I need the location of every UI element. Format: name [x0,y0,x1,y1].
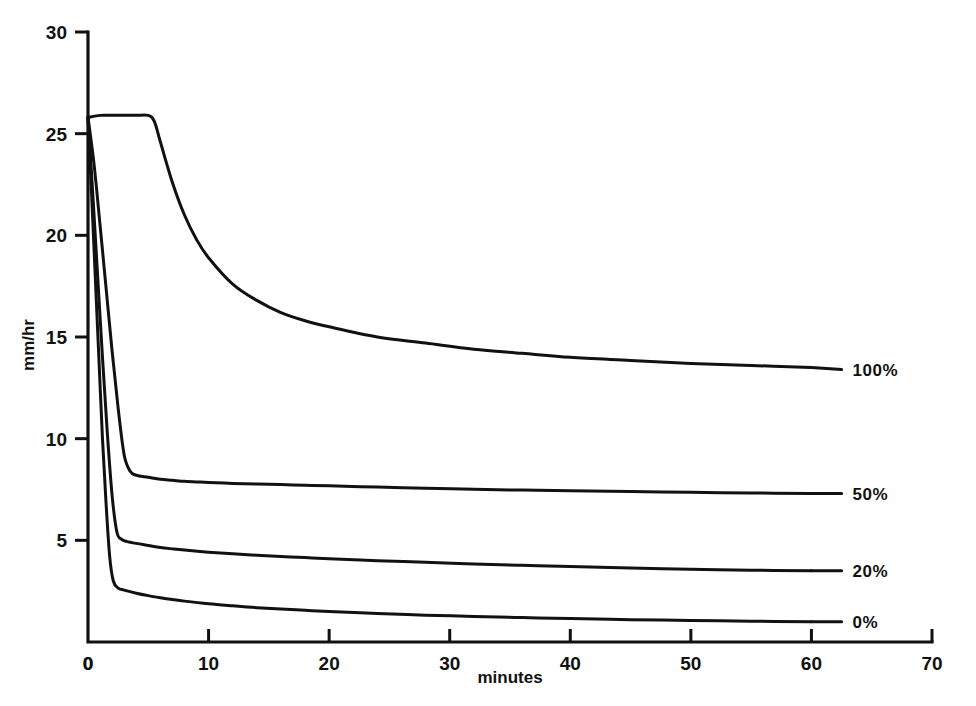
series-label-leader [811,368,841,370]
series-labels: 100%50%20%0% [853,361,898,632]
axis-lines [88,32,932,642]
series-label-20pct: 20% [853,562,889,581]
series-label-100pct: 100% [853,361,898,380]
y-tick-label: 15 [46,327,68,348]
axis-frame [88,32,932,642]
data-curve [88,117,811,493]
x-tick-label: 30 [439,653,460,674]
chart-figure: 010203040506070 510152025300 100%50%20%0… [0,0,976,706]
y-tick-label: 10 [46,429,67,450]
x-tick-label: 70 [921,653,942,674]
line-chart-svg: 010203040506070 510152025300 100%50%20%0… [0,0,976,706]
y-axis-ticks: 510152025300 [46,22,93,674]
x-tick-label: 10 [198,653,219,674]
data-curves [88,115,811,622]
y-axis-title: mm/hr [19,319,38,371]
origin-label: 0 [83,653,94,674]
y-tick-label: 5 [56,530,67,551]
y-tick-label: 20 [46,225,67,246]
x-tick-label: 60 [801,653,822,674]
x-tick-label: 40 [560,653,581,674]
y-tick-label: 25 [46,124,68,145]
clipped-figure-title [300,0,976,3]
y-tick-label: 30 [46,22,67,43]
data-curve [88,117,811,621]
data-curve [88,115,811,368]
x-tick-label: 50 [680,653,701,674]
x-tick-label: 20 [319,653,340,674]
series-label-leaders [811,368,841,622]
series-label-0pct: 0% [853,613,879,632]
data-curve [88,117,811,570]
x-axis-title: minutes [477,668,542,687]
series-label-50pct: 50% [853,485,889,504]
